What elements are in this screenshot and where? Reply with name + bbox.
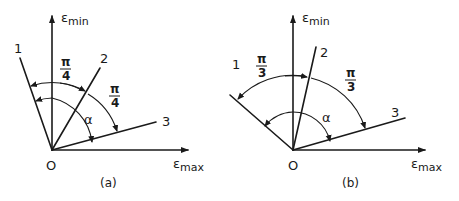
angle-num-2-a: π: [110, 82, 120, 96]
line-label-2-a: 2: [100, 51, 108, 66]
angle-num-1-a: π: [61, 55, 71, 69]
gauge-line-2-a: [52, 68, 100, 150]
caption-b: (b): [342, 176, 359, 190]
gauge-line-1-a: [20, 58, 52, 150]
angle-den-2-a: 4: [111, 96, 119, 110]
line-label-3-b: 3: [391, 105, 399, 120]
x-axis-label-b: εmax: [411, 156, 442, 174]
angle-arc-1-2-b-right: [285, 76, 307, 77]
line-label-1-a: 1: [14, 41, 22, 56]
x-axis-label-a: εmax: [173, 156, 204, 174]
gauge-line-1-b: [230, 95, 293, 150]
gauge-line-2-b: [293, 47, 316, 150]
angle-den-1-b: 3: [258, 66, 266, 80]
strain-gauge-rosette-figure: εmin εmax O 1 2 3 π 4 π 4 α (a) εmin: [0, 0, 459, 201]
alpha-arc-b-left: [265, 112, 293, 126]
angle-den-2-b: 3: [347, 80, 355, 94]
gauge-line-3-b: [293, 118, 405, 150]
gauge-line-3-a: [52, 122, 156, 150]
origin-label-a: O: [46, 158, 56, 173]
angle-num-1-b: π: [257, 52, 267, 66]
panel-a: εmin εmax O 1 2 3 π 4 π 4 α (a): [14, 10, 204, 190]
line-label-1-b: 1: [232, 57, 240, 72]
alpha-label-b: α: [322, 110, 331, 125]
y-axis-label-a: εmin: [61, 10, 89, 28]
line-label-3-a: 3: [162, 114, 170, 129]
caption-a: (a): [100, 176, 117, 190]
origin-label-b: O: [288, 158, 298, 173]
y-axis-label-b: εmin: [302, 10, 330, 28]
panel-b: εmin εmax O 1 2 3 π 3 π 3 α (b): [230, 10, 442, 190]
alpha-label-a: α: [84, 112, 93, 127]
angle-num-2-b: π: [346, 66, 356, 80]
line-label-2-b: 2: [320, 45, 328, 60]
angle-den-1-a: 4: [62, 69, 70, 83]
alpha-arc-a-left: [36, 98, 52, 101]
angle-arc-2-3-b: [311, 78, 365, 128]
